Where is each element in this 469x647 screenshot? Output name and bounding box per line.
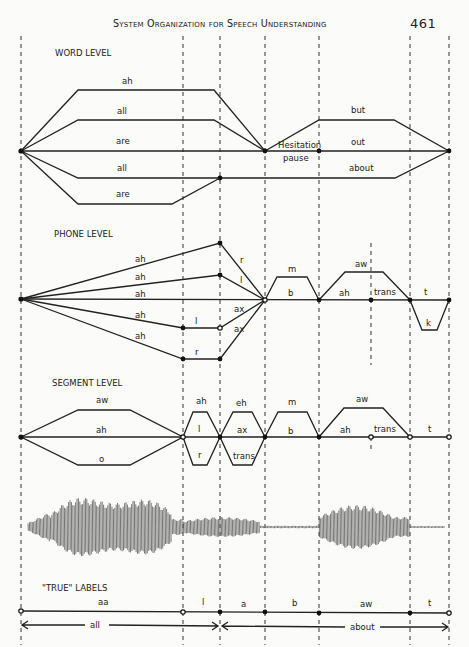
node — [263, 149, 268, 154]
phone-label-r: r — [195, 347, 199, 357]
segment-label-m: m — [288, 397, 296, 407]
segment-level: SEGMENT LEVEL aw ah o ah l r eh ax trans… — [18, 378, 451, 465]
segment-label-ah: ah — [196, 396, 207, 406]
word-label-are: are — [116, 136, 130, 146]
true-label-aa: aa — [98, 597, 108, 607]
true-label-a: a — [241, 599, 246, 609]
node — [317, 435, 322, 440]
segment-label-t: t — [428, 424, 432, 434]
node — [181, 435, 185, 439]
node — [218, 273, 223, 278]
word-level: WORD LEVEL ah all are all are Hesitation… — [18, 48, 451, 204]
book-page: System Organization for Speech Understan… — [0, 0, 469, 647]
segment-label-aw: aw — [96, 395, 108, 405]
word-level-title: WORD LEVEL — [55, 48, 112, 58]
segment-label-aw: aw — [356, 394, 368, 404]
phone-label-b: b — [288, 288, 293, 298]
true-label-aw: aw — [360, 599, 372, 609]
word-label-all-lower: all — [117, 163, 127, 173]
node — [218, 326, 222, 330]
segment-label-ah: ah — [96, 425, 107, 435]
speech-waveform — [28, 498, 444, 556]
arrow-all-right — [109, 622, 218, 630]
phone-label-ah: ah — [135, 272, 146, 282]
segment-hexagon-2 — [183, 412, 220, 465]
node — [408, 611, 413, 616]
true-label-t: t — [428, 598, 432, 608]
phone-label-aw: aw — [355, 259, 367, 269]
phone-baseline — [21, 299, 449, 300]
phone-label-ah: ah — [339, 288, 350, 298]
true-label-b: b — [292, 598, 297, 608]
phone-level-title: PHONE LEVEL — [54, 229, 113, 239]
word-label-hesitation: Hesitation — [278, 140, 321, 150]
phone-label-ah: ah — [135, 254, 146, 264]
node — [218, 241, 223, 246]
phone-label-ah: ah — [135, 310, 146, 320]
arrow-about-right — [380, 623, 448, 631]
segment-path-aw — [319, 408, 410, 437]
node — [18, 296, 23, 301]
node — [263, 298, 267, 302]
phone-label-l: l — [195, 316, 197, 326]
phone-label-trans: trans — [374, 287, 396, 297]
node — [369, 298, 374, 303]
node — [218, 610, 223, 615]
phone-label-t: t — [424, 287, 428, 297]
phone-path — [21, 299, 265, 359]
node — [181, 326, 186, 331]
speech-lattice-figure: WORD LEVEL ah all are all are Hesitation… — [0, 0, 469, 647]
phone-path-aw — [319, 272, 410, 300]
node — [317, 298, 322, 303]
word-label-out: out — [351, 137, 366, 147]
node — [408, 298, 413, 303]
true-labels: "TRUE" LABELS aa l a b aw t all about — [19, 583, 451, 632]
word-label-pause: pause — [283, 153, 309, 163]
segment-label-l: l — [198, 424, 200, 434]
true-word-about: about — [350, 622, 375, 632]
segment-label-trans: trans — [374, 424, 396, 434]
phone-label-k: k — [426, 318, 431, 328]
segment-level-title: SEGMENT LEVEL — [52, 378, 123, 388]
node — [19, 609, 23, 613]
node — [218, 176, 223, 181]
node — [317, 149, 322, 154]
phone-label-r-converge: r — [240, 255, 244, 265]
segment-label-eh: eh — [236, 398, 247, 408]
word-label-but: but — [351, 105, 366, 115]
arrow-about-left — [222, 622, 345, 630]
segment-label-b: b — [288, 426, 293, 436]
node — [447, 298, 452, 303]
node — [181, 357, 186, 362]
node — [218, 435, 223, 440]
word-label-are-lower: are — [116, 189, 130, 199]
segment-label-trans: trans — [233, 451, 255, 461]
word-label-all: all — [117, 106, 127, 116]
true-labels-title: "TRUE" LABELS — [42, 583, 107, 593]
node — [317, 611, 322, 616]
node — [447, 149, 452, 154]
node — [369, 435, 373, 439]
segment-label-r: r — [198, 450, 202, 460]
node — [408, 435, 412, 439]
phone-level: PHONE LEVEL ah ah ah ah ah l r r l ax ax… — [18, 229, 451, 361]
node — [18, 434, 23, 439]
segment-label-ah: ah — [340, 425, 351, 435]
time-boundary-lines — [21, 36, 449, 645]
node — [263, 435, 268, 440]
phone-label-m: m — [288, 264, 296, 274]
node — [263, 610, 268, 615]
phone-label-ah: ah — [135, 331, 146, 341]
word-path-all — [21, 120, 265, 151]
word-path-all-about — [21, 151, 449, 178]
node — [218, 357, 223, 362]
segment-label-ax: ax — [237, 425, 247, 435]
true-word-all: all — [90, 620, 100, 630]
word-label-about: about — [349, 163, 374, 173]
true-label-l: l — [202, 597, 204, 607]
arrow-all-left — [22, 621, 85, 629]
phone-label-ax: ax — [234, 304, 244, 314]
node — [18, 148, 23, 153]
phone-label-l-converge: l — [240, 275, 242, 285]
true-labels-baseline — [21, 611, 449, 613]
